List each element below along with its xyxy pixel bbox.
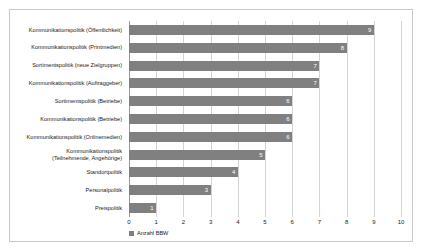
bar-value-label: 6 bbox=[286, 134, 292, 140]
bar-row: 1 bbox=[129, 199, 401, 217]
bar: 7 bbox=[129, 78, 319, 88]
x-tick-label: 10 bbox=[398, 219, 405, 226]
category-label: Preispolitik bbox=[95, 205, 122, 212]
category-label: Sortimentspolitik (neue Zielgruppen) bbox=[32, 62, 122, 69]
bar-row: 5 bbox=[129, 146, 401, 164]
bar-value-label: 6 bbox=[286, 98, 292, 104]
category-axis-labels: Kommunikationspolitik (Öffentlichkeit)Ko… bbox=[12, 21, 126, 217]
bar: 6 bbox=[129, 132, 292, 142]
legend-label: Anzahl BBW bbox=[137, 230, 168, 236]
bar-row: 3 bbox=[129, 181, 401, 199]
x-tick-label: 2 bbox=[182, 219, 185, 226]
bar: 1 bbox=[129, 203, 156, 213]
bar: 4 bbox=[129, 167, 238, 177]
bar: 9 bbox=[129, 25, 374, 35]
bar: 5 bbox=[129, 150, 265, 160]
category-label: Kommunikationspolitik (Auftraggeber) bbox=[29, 80, 122, 87]
bar-row: 7 bbox=[129, 57, 401, 75]
bar-value-label: 7 bbox=[314, 63, 320, 69]
bar-value-label: 1 bbox=[150, 205, 156, 211]
bar: 6 bbox=[129, 96, 292, 106]
plot-area: 98776665431 bbox=[129, 21, 401, 217]
bar-value-label: 6 bbox=[286, 116, 292, 122]
category-label: Kommunikationspolitik (Öffentlichkeit) bbox=[29, 27, 122, 34]
bar: 3 bbox=[129, 185, 211, 195]
gridline-10 bbox=[401, 21, 402, 217]
chart-legend: Anzahl BBW bbox=[129, 230, 168, 236]
bar-row: 6 bbox=[129, 92, 401, 110]
x-tick-label: 9 bbox=[372, 219, 375, 226]
bar-value-label: 3 bbox=[205, 187, 211, 193]
bar-value-label: 4 bbox=[232, 169, 238, 175]
bar: 7 bbox=[129, 61, 319, 71]
bar-row: 7 bbox=[129, 74, 401, 92]
category-label: Standortpolitik bbox=[87, 169, 122, 176]
chart-frame: Kommunikationspolitik (Öffentlichkeit)Ko… bbox=[9, 9, 413, 242]
category-label: Sortimentspolitik (Betriebe) bbox=[55, 98, 122, 105]
bar: 6 bbox=[129, 114, 292, 124]
bar-row: 9 bbox=[129, 21, 401, 39]
category-label: Personalpolitik bbox=[86, 187, 122, 194]
x-tick-label: 4 bbox=[236, 219, 239, 226]
bar-value-label: 9 bbox=[368, 27, 374, 33]
x-tick-label: 1 bbox=[155, 219, 158, 226]
bar-value-label: 7 bbox=[314, 80, 320, 86]
x-tick-label: 8 bbox=[345, 219, 348, 226]
x-tick-label: 5 bbox=[263, 219, 266, 226]
bar-row: 6 bbox=[129, 110, 401, 128]
x-tick-label: 7 bbox=[318, 219, 321, 226]
bar-row: 6 bbox=[129, 128, 401, 146]
category-label: Kommunikationspolitik (Onlinemedien) bbox=[27, 134, 122, 141]
bar-value-label: 5 bbox=[259, 152, 265, 158]
category-label: Kommunikationspolitik (Betriebe) bbox=[40, 116, 122, 123]
bar-row: 8 bbox=[129, 39, 401, 57]
category-label: Kommunikationspolitik (Teilnehmende, Ang… bbox=[52, 148, 122, 161]
x-tick-label: 0 bbox=[127, 219, 130, 226]
category-label: Kommunikationspolitik (Printmedien) bbox=[31, 44, 122, 51]
bar-row: 4 bbox=[129, 164, 401, 182]
x-axis-tick-labels: 012345678910 bbox=[129, 217, 401, 229]
x-tick-label: 3 bbox=[209, 219, 212, 226]
x-tick-label: 6 bbox=[291, 219, 294, 226]
bar-series: 98776665431 bbox=[129, 21, 401, 217]
bar: 8 bbox=[129, 43, 347, 53]
legend-swatch-icon bbox=[129, 231, 134, 236]
bar-value-label: 8 bbox=[341, 45, 347, 51]
